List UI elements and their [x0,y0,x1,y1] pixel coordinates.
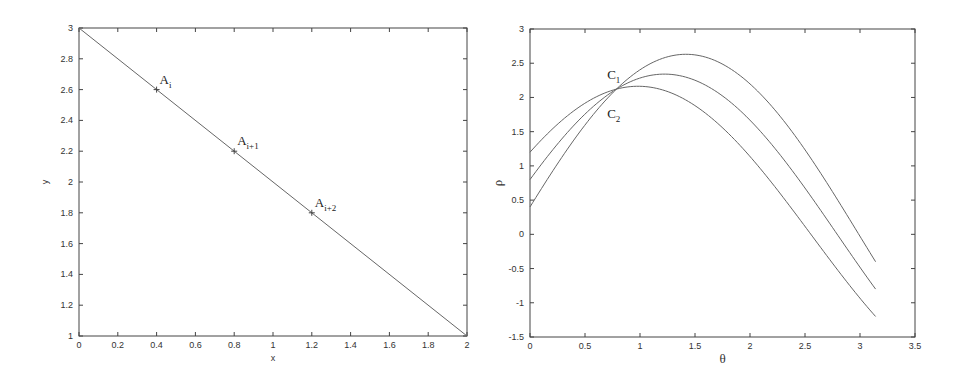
y-tick-label: 2.6 [60,85,73,95]
y-tick-label: 1 [68,331,73,341]
y-tick-label: -1.5 [508,332,524,342]
right-chart-hough-curves: 00.511.522.533.5-1.5-1-0.500.511.522.53θ… [490,24,921,366]
y-tick-label: 1 [519,161,524,171]
y-tick-label: 1.2 [60,300,73,310]
plot-frame [530,29,915,337]
x-tick-label: 1.2 [306,340,319,350]
point-annotation: Ai+2 [315,195,336,213]
hough-curve [530,54,876,261]
x-tick-label: 0.8 [228,340,241,350]
y-tick-label: 2 [519,92,524,102]
intersection-annotation: C1 [607,67,620,85]
x-tick-label: 0.5 [579,341,592,351]
x-tick-label: 0.2 [112,340,125,350]
y-tick-label: 2 [68,177,73,187]
x-tick-label: 3 [857,341,862,351]
x-tick-label: 1.8 [422,340,435,350]
x-tick-label: 2 [747,341,752,351]
x-tick-label: 1 [637,341,642,351]
left-chart-line-points: 00.20.40.60.811.21.41.61.8211.21.41.61.8… [40,23,470,363]
y-tick-label: -0.5 [508,264,524,274]
x-tick-label: 1.5 [689,341,702,351]
x-tick-label: 0 [527,341,532,351]
y-tick-label: -1 [516,298,524,308]
y-tick-label: 1.6 [60,239,73,249]
line-series [79,28,467,336]
x-axis-label: x [271,353,276,363]
x-tick-label: 0.6 [189,340,202,350]
y-tick-label: 1.8 [60,208,73,218]
y-axis-label: ρ [490,180,505,187]
intersection-annotation: C2 [607,106,620,124]
y-tick-label: 2.8 [60,54,73,64]
point-annotation: Ai+1 [237,133,258,151]
y-tick-label: 1.5 [511,127,524,137]
y-tick-label: 1.4 [60,269,73,279]
y-tick-label: 0 [519,229,524,239]
y-tick-label: 2.2 [60,146,73,156]
hough-curve [530,74,876,289]
y-tick-label: 3 [68,23,73,33]
x-tick-label: 2.5 [799,341,812,351]
y-tick-label: 0.5 [511,195,524,205]
x-tick-label: 1.6 [383,340,396,350]
hough-curve [530,86,876,316]
x-tick-label: 1 [270,340,275,350]
figure: 00.20.40.60.811.21.41.61.8211.21.41.61.8… [0,0,964,381]
y-tick-label: 2.5 [511,58,524,68]
x-tick-label: 2 [464,340,469,350]
x-tick-label: 0.4 [150,340,163,350]
x-tick-label: 3.5 [909,341,922,351]
y-tick-label: 3 [519,24,524,34]
x-tick-label: 0 [76,340,81,350]
y-axis-label: y [40,179,50,184]
point-annotation: Ai [160,72,172,90]
x-axis-label: θ [719,351,725,366]
x-tick-label: 1.4 [344,340,357,350]
y-tick-label: 2.4 [60,115,73,125]
